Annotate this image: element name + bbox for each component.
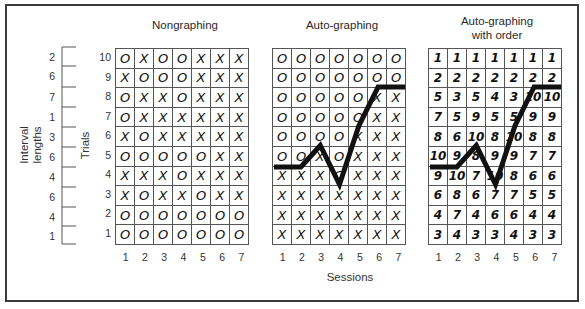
graph-line-auto-graphing [274,87,405,185]
figure-overlay [0,0,585,309]
graph-line-auto-graphing-with-order [430,87,561,185]
interval-scale [62,47,76,244]
